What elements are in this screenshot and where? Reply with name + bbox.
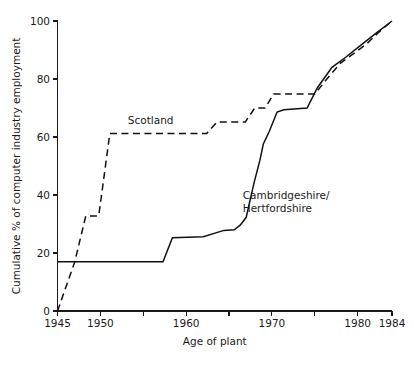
y-tick-label: 0 <box>43 305 50 317</box>
axes: 020406080100 194519501960197019801984 <box>30 15 406 329</box>
series-label-scotland: Scotland <box>128 114 174 126</box>
series-annotations: Scotland Cambridgeshire/ Hertfordshire <box>128 114 330 214</box>
y-axis-tick-labels: 020406080100 <box>30 15 50 317</box>
y-tick-label: 100 <box>30 15 50 27</box>
series-label-cambridgeshire-line2: Hertfordshire <box>243 202 312 214</box>
x-tick-label: 1950 <box>87 317 114 329</box>
x-tick-label: 1945 <box>44 317 71 329</box>
series-line-cambridgeshire-hertfordshire <box>58 21 393 262</box>
chart-figure: 020406080100 194519501960197019801984 Sc… <box>0 0 414 367</box>
x-tick-label: 1960 <box>173 317 200 329</box>
y-axis-title: Cumulative % of computer industry employ… <box>10 38 22 295</box>
series-label-cambridgeshire-line1: Cambridgeshire/ <box>243 189 330 201</box>
y-tick-label: 20 <box>37 247 50 259</box>
series-line-scotland <box>58 21 393 311</box>
cumulative-employment-line-chart: 020406080100 194519501960197019801984 Sc… <box>0 0 414 367</box>
x-tick-label: 1984 <box>379 317 406 329</box>
x-tick-label: 1970 <box>259 317 286 329</box>
y-axis-ticks <box>53 21 58 311</box>
x-axis-tick-labels: 194519501960197019801984 <box>44 317 406 329</box>
x-axis-ticks <box>58 311 393 316</box>
y-tick-label: 80 <box>37 73 50 85</box>
y-tick-label: 60 <box>37 131 50 143</box>
x-axis-title: Age of plant <box>183 335 247 347</box>
x-tick-label: 1980 <box>344 317 371 329</box>
data-series <box>58 21 393 311</box>
y-tick-label: 40 <box>37 189 50 201</box>
